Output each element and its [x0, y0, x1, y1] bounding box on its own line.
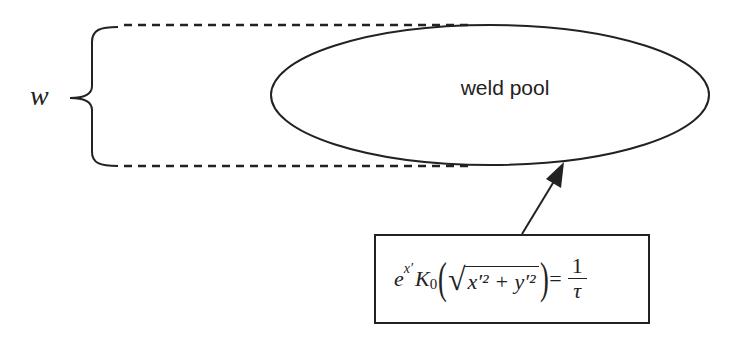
eq-base: e — [394, 266, 404, 292]
right-paren: ) — [540, 257, 549, 301]
eq-numerator: 1 — [568, 254, 587, 279]
sqrt-icon: √ — [448, 263, 466, 295]
equation: e x′ K 0 ( √ x′² + y′² ) = 1 τ — [394, 254, 587, 303]
weld-pool-label: weld pool — [440, 76, 570, 100]
equation-box: e x′ K 0 ( √ x′² + y′² ) = 1 τ — [374, 234, 650, 324]
arrow-line — [522, 178, 556, 234]
eq-bessel: K — [415, 266, 430, 292]
eq-equals: = — [549, 266, 561, 292]
square-root: √ x′² + y′² — [448, 263, 539, 295]
left-paren: ( — [438, 257, 447, 301]
eq-exponent: x′ — [404, 261, 413, 277]
eq-denominator: τ — [573, 279, 581, 303]
width-brace — [70, 27, 118, 166]
eq-radicand: x′² + y′² — [465, 266, 538, 295]
arrow-head-icon — [546, 162, 564, 188]
eq-bessel-sub: 0 — [430, 276, 438, 293]
fraction: 1 τ — [568, 254, 587, 303]
width-label: w — [30, 80, 49, 112]
